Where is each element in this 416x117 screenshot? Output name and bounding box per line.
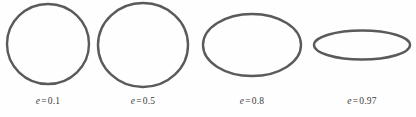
equals-sign: =	[135, 96, 143, 106]
eccentricity-value: 0.5	[143, 96, 155, 106]
ellipse-label-1: e=0.1	[36, 96, 60, 106]
ellipse-group	[7, 3, 410, 87]
eccentricity-value: 0.97	[359, 96, 376, 106]
ellipse-label-2: e=0.5	[131, 96, 155, 106]
ellipse-shape-4	[314, 31, 410, 60]
ellipse-eccentricity-figure: e=0.1 e=0.5 e=0.8 e=0.97	[0, 0, 416, 117]
ellipse-shape-1	[7, 4, 89, 84]
eccentricity-value: 0.8	[252, 96, 264, 106]
eccentricity-value: 0.1	[48, 96, 60, 106]
equals-sign: =	[244, 96, 252, 106]
equals-sign: =	[352, 96, 360, 106]
ellipse-shape-3	[203, 14, 301, 76]
equals-sign: =	[40, 96, 48, 106]
ellipse-label-3: e=0.8	[240, 96, 264, 106]
ellipse-label-4: e=0.97	[347, 96, 376, 106]
ellipse-shape-2	[98, 3, 188, 87]
